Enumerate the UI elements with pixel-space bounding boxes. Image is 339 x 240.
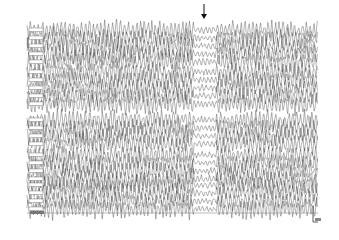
channel-label [29, 183, 43, 187]
channel-label [29, 126, 43, 130]
arrow-down-icon [201, 4, 207, 19]
eeg-traces [0, 0, 339, 240]
channel-label [29, 191, 43, 195]
channel-label [29, 169, 43, 173]
channel-label [29, 207, 43, 211]
channel-label [29, 78, 43, 82]
channel-label [29, 134, 43, 138]
eeg-channel-trace [27, 19, 317, 42]
channel-label [29, 199, 43, 203]
eeg-figure [0, 0, 339, 240]
channel-label [29, 177, 43, 181]
channel-label [29, 70, 43, 74]
channel-label [29, 44, 43, 48]
channel-label [29, 161, 43, 165]
channel-label [29, 60, 43, 64]
channel-label [29, 36, 43, 40]
channel-label [29, 153, 43, 157]
channel-label [29, 102, 43, 106]
channel-labels [29, 28, 43, 211]
channel-label [29, 28, 43, 32]
channel-label [29, 52, 43, 56]
channel-label [29, 118, 43, 122]
channel-label [29, 86, 43, 90]
baseline-label [30, 211, 44, 214]
channel-label [29, 94, 43, 98]
eeg-channel-traces [27, 19, 317, 221]
channel-label [29, 142, 43, 146]
